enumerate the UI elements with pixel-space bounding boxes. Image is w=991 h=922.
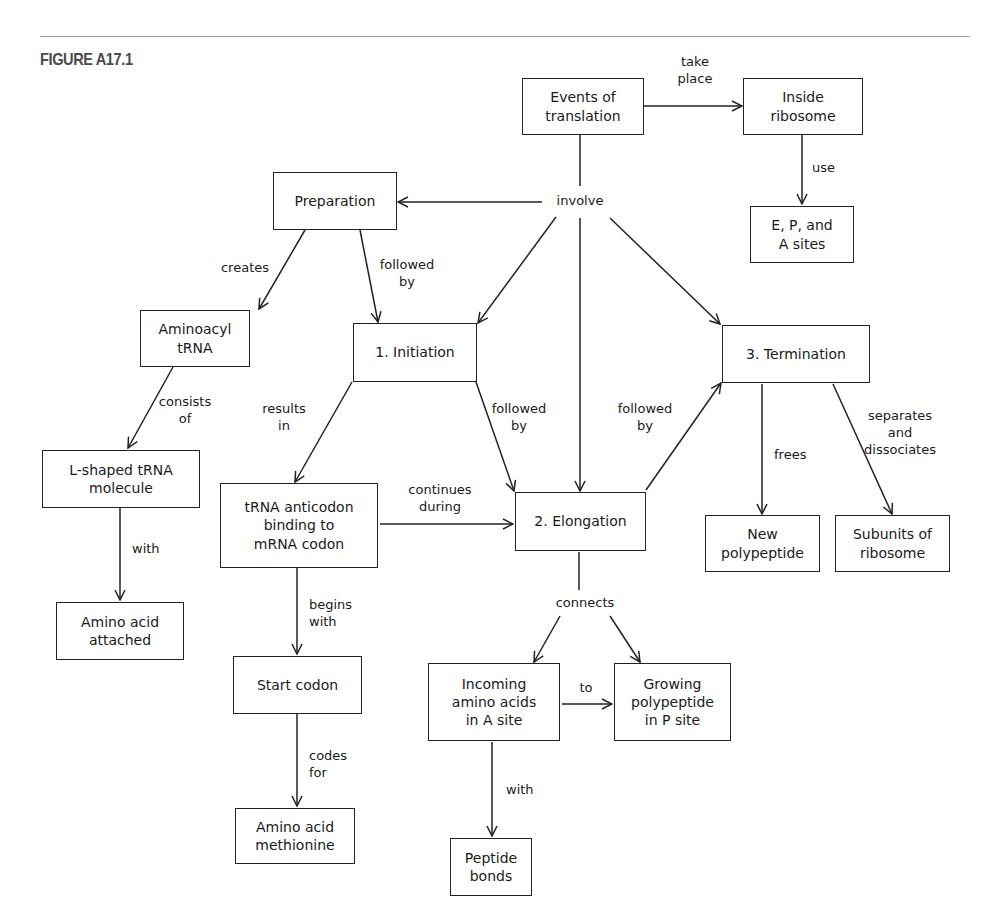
- link-label-results-in: results in: [254, 401, 314, 435]
- link-label-begins-with: begins with: [309, 597, 352, 631]
- node-initiation: 1. Initiation: [353, 323, 477, 382]
- link-label-to: to: [574, 680, 598, 697]
- link-label-with-incoming: with: [506, 782, 534, 799]
- link-label-continues-during: continues during: [400, 482, 480, 516]
- node-start-codon: Start codon: [233, 656, 362, 714]
- node-amino-acid-attached: Amino acid attached: [56, 602, 184, 660]
- link-label-use: use: [812, 160, 835, 177]
- link-label-frees: frees: [774, 447, 806, 464]
- link-label-codes-for: codes for: [309, 748, 347, 782]
- node-trna-anticodon-binding: tRNA anticodon binding to mRNA codon: [220, 483, 378, 568]
- node-growing-polypeptide: Growing polypeptide in P site: [614, 663, 731, 741]
- node-new-polypeptide: New polypeptide: [705, 515, 820, 572]
- node-sites: E, P, and A sites: [750, 206, 854, 263]
- link-label-involve: involve: [544, 193, 616, 210]
- link-label-connects: connects: [545, 595, 625, 612]
- link-label-take-place: take place: [670, 54, 720, 88]
- link-label-separates-and-dissociates: separates and dissociates: [850, 408, 950, 459]
- node-termination: 3. Termination: [722, 325, 870, 383]
- node-inside-ribosome: Inside ribosome: [743, 78, 863, 135]
- node-peptide-bonds: Peptide bonds: [450, 838, 532, 896]
- node-events-of-translation: Events of translation: [522, 78, 644, 135]
- link-label-followed-by-elong: followed by: [610, 401, 680, 435]
- link-label-followed-by-init: followed by: [484, 401, 554, 435]
- link-label-consists-of: consists of: [150, 394, 220, 428]
- node-elongation: 2. Elongation: [515, 492, 646, 551]
- node-l-shaped-trna: L-shaped tRNA molecule: [42, 450, 200, 508]
- node-incoming-amino-acids: Incoming amino acids in A site: [428, 663, 560, 741]
- node-aminoacyl-trna: Aminoacyl tRNA: [140, 310, 250, 367]
- node-amino-acid-methionine: Amino acid methionine: [235, 808, 355, 864]
- node-preparation: Preparation: [273, 172, 397, 230]
- link-label-with-lshaped: with: [132, 541, 160, 558]
- node-subunits-of-ribosome: Subunits of ribosome: [835, 515, 950, 572]
- link-label-followed-by-prep: followed by: [372, 257, 442, 291]
- link-label-creates: creates: [210, 260, 280, 277]
